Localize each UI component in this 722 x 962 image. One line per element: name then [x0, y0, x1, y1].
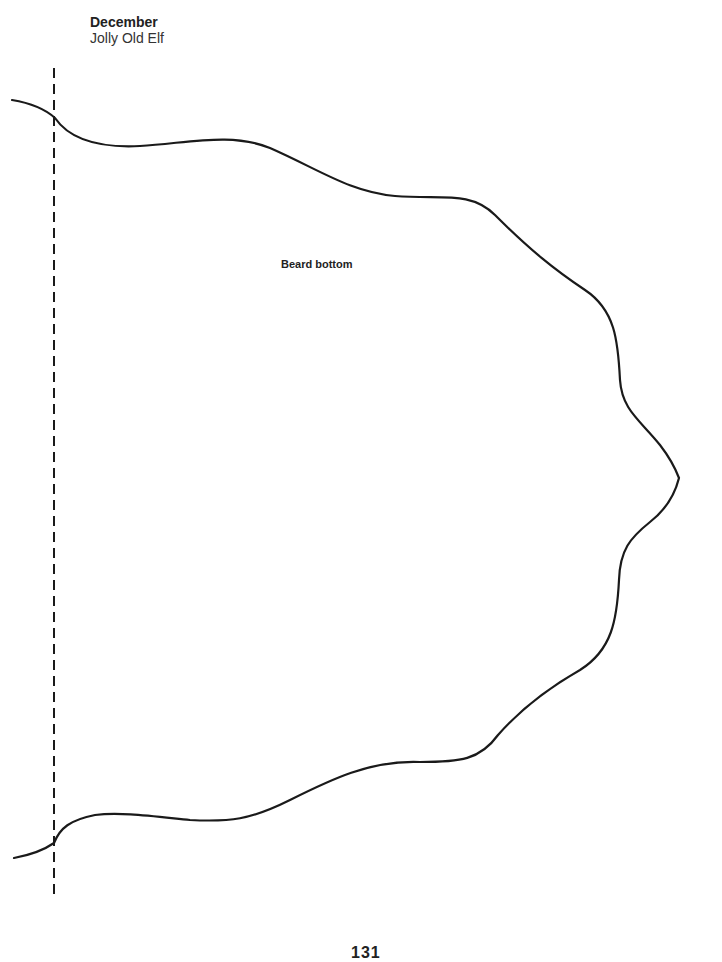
pattern-piece-label: Beard bottom	[281, 258, 353, 270]
page-number: 131	[351, 944, 381, 962]
beard-outline	[12, 100, 679, 858]
